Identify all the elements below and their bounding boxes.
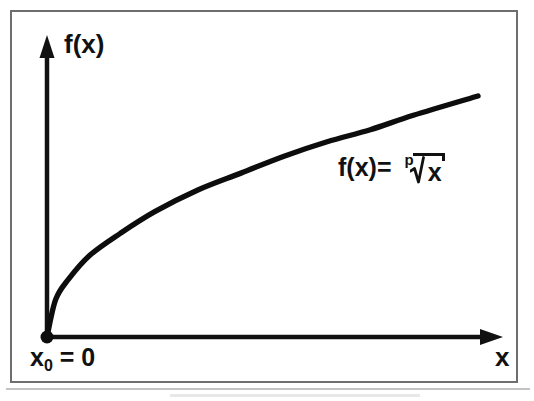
- radicand-label: x: [426, 160, 443, 185]
- plot-canvas: [0, 0, 534, 401]
- function-curve: [47, 96, 478, 337]
- radical-index-label: p: [404, 152, 413, 167]
- formula-left-side: f(x)=: [338, 155, 391, 180]
- x-axis-label: x: [495, 344, 509, 370]
- figure-page: f(x) x x0 = 0 f(x)= p x: [0, 0, 534, 401]
- function-formula-annotation: f(x)= p x: [338, 150, 443, 184]
- origin-label-equals: = 0: [53, 343, 95, 371]
- origin-label-base: x: [30, 343, 44, 371]
- y-axis-arrowhead: [40, 35, 55, 58]
- origin-point-marker: [41, 331, 54, 344]
- y-axis-label: f(x): [64, 31, 104, 57]
- scan-artifact-line: [6, 388, 530, 390]
- radical-expression: p x: [400, 150, 442, 184]
- origin-label-subscript: 0: [44, 357, 53, 374]
- scan-artifact-line-secondary: [170, 394, 420, 397]
- radical-overbar-tick: [442, 153, 445, 161]
- radical-overbar: [413, 153, 445, 156]
- origin-label: x0 = 0: [30, 345, 95, 374]
